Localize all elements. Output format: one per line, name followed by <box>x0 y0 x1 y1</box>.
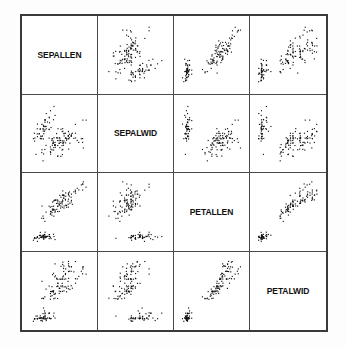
data-point <box>202 69 203 70</box>
data-point <box>144 38 145 39</box>
data-point <box>59 142 60 143</box>
data-point <box>139 312 140 313</box>
data-point <box>75 282 76 283</box>
data-point <box>81 270 82 271</box>
data-point <box>86 273 87 274</box>
data-point <box>82 137 83 138</box>
data-point <box>222 137 223 138</box>
data-point <box>268 130 269 131</box>
splom-diagonal-cell-petallen: PETALLEN <box>174 173 250 252</box>
data-point <box>217 287 218 288</box>
data-point <box>65 142 66 143</box>
data-point <box>292 142 293 143</box>
data-point <box>202 296 203 297</box>
data-point <box>49 234 50 235</box>
data-point <box>302 144 303 145</box>
data-point <box>46 319 47 320</box>
splom-scatter-cell-sepalwid-vs-petallen <box>174 95 250 174</box>
data-point <box>62 203 63 204</box>
data-point <box>212 54 213 55</box>
data-point <box>238 119 239 120</box>
data-point <box>34 137 35 138</box>
data-point <box>229 38 230 39</box>
data-point <box>132 320 133 321</box>
data-point <box>130 199 131 200</box>
data-point <box>260 80 261 81</box>
data-point <box>224 133 225 134</box>
data-point <box>46 236 47 237</box>
data-point <box>216 128 217 129</box>
data-point <box>187 315 188 316</box>
data-point <box>227 54 228 55</box>
data-point <box>187 69 188 70</box>
data-point <box>144 318 145 319</box>
data-point <box>234 139 235 140</box>
data-point <box>155 68 156 69</box>
data-point <box>126 267 127 268</box>
data-point <box>212 292 213 293</box>
data-point <box>119 221 120 222</box>
data-point <box>213 144 214 145</box>
data-point <box>191 70 192 71</box>
data-point <box>185 312 186 313</box>
data-point <box>54 276 55 277</box>
data-point <box>309 142 310 143</box>
data-point <box>128 204 129 205</box>
data-point <box>55 292 56 293</box>
data-point <box>312 189 313 190</box>
data-point <box>135 237 136 238</box>
data-point <box>187 317 188 318</box>
data-point <box>294 144 295 145</box>
data-point <box>47 236 48 237</box>
data-point <box>77 139 78 140</box>
data-point <box>137 193 138 194</box>
data-point <box>81 184 82 185</box>
data-point <box>135 193 136 194</box>
data-point <box>212 148 213 149</box>
data-point <box>290 44 291 45</box>
data-point <box>185 78 186 79</box>
data-point <box>121 63 122 64</box>
data-point <box>44 236 45 237</box>
data-point <box>131 235 132 236</box>
data-point <box>215 287 216 288</box>
data-point <box>135 205 136 206</box>
data-point <box>316 190 317 191</box>
data-point <box>187 60 188 61</box>
data-point <box>221 285 222 286</box>
splom-scatter-cell-sepallen-vs-petalwid <box>250 16 326 95</box>
data-point <box>128 194 129 195</box>
data-point <box>225 42 226 43</box>
data-point <box>212 60 213 61</box>
data-point <box>222 56 223 57</box>
scatter-plot <box>250 16 326 94</box>
data-point <box>238 141 239 142</box>
data-point <box>120 272 121 273</box>
data-point <box>217 54 218 55</box>
data-point <box>227 278 228 279</box>
data-point <box>120 62 121 63</box>
data-point <box>300 37 301 38</box>
data-point <box>290 144 291 145</box>
data-point <box>119 286 120 287</box>
data-point <box>50 238 51 239</box>
data-point <box>212 63 213 64</box>
data-point <box>204 151 205 152</box>
data-point <box>43 239 44 240</box>
data-point <box>237 270 238 271</box>
data-point <box>206 60 207 61</box>
data-point <box>59 138 60 139</box>
data-point <box>137 260 138 261</box>
data-point <box>290 203 291 204</box>
data-point <box>232 266 233 267</box>
data-point <box>230 133 231 134</box>
data-point <box>305 119 306 120</box>
data-point <box>300 50 301 51</box>
data-point <box>127 44 128 45</box>
data-point <box>237 31 238 32</box>
data-point <box>218 45 219 46</box>
data-point <box>73 271 74 272</box>
data-point <box>290 142 291 143</box>
data-point <box>311 200 312 201</box>
data-point <box>304 141 305 142</box>
